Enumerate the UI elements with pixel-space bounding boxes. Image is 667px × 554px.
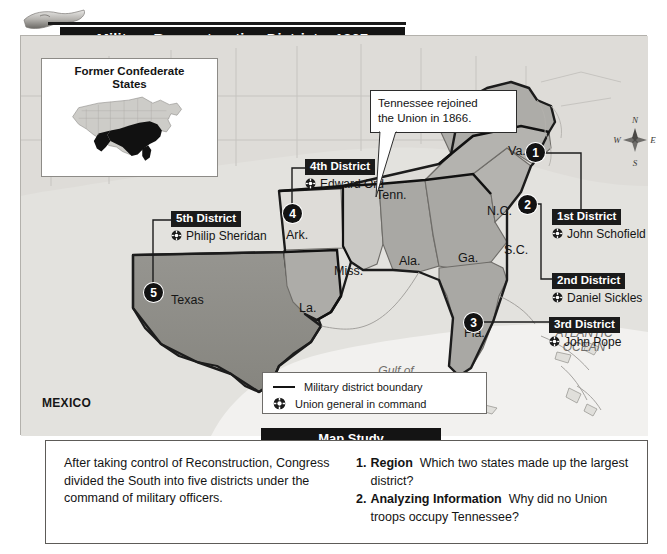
compass-s: S [633, 158, 638, 168]
compass-w: W [613, 135, 622, 145]
state-label-tx: Texas [171, 293, 204, 307]
map-study-question-1: 1. Region Which two states made up the l… [356, 455, 637, 490]
state-label-al: Ala. [399, 254, 421, 268]
question-1-label: Region [370, 456, 412, 470]
union-general-icon [171, 230, 182, 241]
question-2-body: Analyzing Information Why did no Union t… [370, 491, 637, 526]
district-tag-3: 3rd District [549, 317, 620, 333]
district-label-3[interactable]: 3rd District John Pope [549, 314, 621, 349]
map-study-question-2: 2. Analyzing Information Why did no Unio… [356, 491, 637, 526]
compass-rose: N E S W [607, 108, 663, 170]
union-general-icon [552, 228, 563, 239]
state-label-va: Va. [508, 144, 526, 158]
district-tag-5: 5th District [171, 211, 241, 227]
tennessee-callout: Tennessee rejoined the Union in 1866. [370, 90, 517, 133]
district-general-2: Daniel Sickles [552, 291, 642, 305]
state-label-la: La. [299, 301, 316, 315]
state-label-ar: Ark. [286, 228, 308, 242]
district-marker-5[interactable]: 5 [144, 283, 163, 302]
district-label-5[interactable]: 5th District Philip Sheridan [171, 208, 267, 243]
district-marker-3[interactable]: 3 [464, 313, 483, 332]
union-general-icon [552, 292, 563, 303]
question-2-number: 2. [356, 491, 366, 526]
district-marker-2[interactable]: 2 [518, 195, 537, 214]
map-legend: Military district boundary Union general… [262, 372, 487, 414]
country-label-mexico: MEXICO [42, 396, 91, 410]
district-marker-4[interactable]: 4 [283, 204, 302, 223]
compass-e: E [649, 135, 656, 145]
state-label-nc: N.C. [487, 204, 512, 218]
map-study-summary: After taking control of Reconstruction, … [64, 455, 336, 508]
state-label-ms: Miss. [334, 264, 363, 278]
inset-us-map [42, 85, 219, 175]
question-1-body: Region Which two states made up the larg… [370, 455, 637, 490]
boundary-line-icon [273, 386, 295, 388]
map-study-panel: After taking control of Reconstruction, … [45, 440, 648, 544]
district-general-1: John Schofield [552, 227, 646, 241]
union-general-icon [273, 397, 286, 410]
district-marker-1[interactable]: 1 [526, 143, 545, 162]
state-label-sc: S.C. [504, 243, 528, 257]
district-label-1[interactable]: 1st District John Schofield [552, 206, 646, 241]
map-study-summary-col: After taking control of Reconstruction, … [46, 441, 346, 543]
union-general-icon [549, 336, 560, 347]
district-tag-1: 1st District [552, 209, 621, 225]
question-1-number: 1. [356, 455, 366, 490]
callout-pointer [370, 131, 430, 199]
map-frame: Former Confederate States [20, 35, 647, 435]
inset-title-line1: Former Confederate [75, 65, 185, 77]
union-general-icon [305, 178, 316, 189]
legend-row-general: Union general in command [273, 395, 486, 412]
callout-line2: the Union in 1866. [378, 111, 509, 126]
district-general-3: John Pope [549, 335, 621, 349]
district-tag-2: 2nd District [552, 273, 625, 289]
district-general-5: Philip Sheridan [171, 229, 267, 243]
map-page: Military Reconstruction Districts, 1867 [0, 0, 667, 554]
title-rule [48, 22, 406, 25]
district-label-2[interactable]: 2nd District Daniel Sickles [552, 270, 642, 305]
legend-row-boundary: Military district boundary [273, 378, 486, 395]
district-tag-4: 4th District [305, 159, 375, 175]
callout-line1: Tennessee rejoined [378, 96, 509, 111]
inset-map: Former Confederate States [41, 58, 218, 177]
question-2-label: Analyzing Information [370, 492, 501, 506]
map-study-questions-col: 1. Region Which two states made up the l… [346, 441, 647, 543]
compass-n: N [631, 115, 639, 125]
state-label-ga: Ga. [458, 251, 478, 265]
